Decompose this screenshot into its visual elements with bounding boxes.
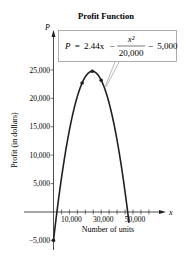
chart-title: Profit Function [78,11,134,21]
y-axis-arrow-icon [52,30,56,37]
equation-callout: P = 2.44x − x² 20,000 − 5,000 [59,31,179,88]
y-tick-label: 5,000 [33,179,50,188]
svg-text:20,000: 20,000 [119,48,144,58]
data-point [80,81,84,85]
y-axis-symbol: P [44,23,50,32]
svg-text:− 5,000: − 5,000 [148,41,178,51]
x-axis-arrow-icon [159,210,166,214]
y-axis: P [44,23,55,250]
y-tick-label: 25,000 [29,66,50,75]
data-point [52,239,56,243]
y-tick-label: 20,000 [29,94,50,103]
y-ticks: 25,00020,00015,00010,0005,000−5,000 [29,66,54,245]
data-point [99,78,103,82]
x-tick-label: 10,000 [61,215,82,224]
y-tick-label: 15,000 [29,122,50,131]
y-tick-label: −5,000 [29,236,50,245]
svg-text:x²: x² [127,34,135,44]
data-point [90,70,94,74]
x-axis-symbol: x [168,208,173,217]
y-tick-label: 10,000 [29,151,50,160]
y-axis-label: Profit (in dollars) [10,112,19,168]
x-axis-label: Number of units [82,225,134,234]
x-tick-label: 30,000 [93,215,114,224]
profit-chart: Profit Function P x 10,00030,00050,000 2… [0,0,189,269]
